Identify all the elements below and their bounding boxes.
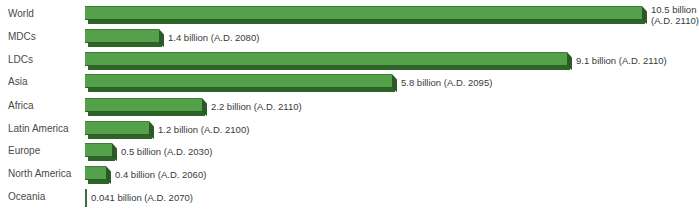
bar-front-face: [85, 29, 159, 43]
chart-row-ldcs: LDCs 9.1 billion (A.D. 2110): [0, 50, 650, 72]
value-label: 0.5 billion (A.D. 2030): [121, 146, 212, 157]
chart-row-europe: Europe 0.5 billion (A.D. 2030): [0, 141, 650, 163]
bar-bottom-face: [88, 180, 109, 184]
value-label: 10.5 billion(A.D. 2110): [651, 4, 699, 26]
bar-bottom-face: [88, 43, 162, 47]
value-label: 0.4 billion (A.D. 2060): [115, 169, 206, 180]
category-label: Africa: [8, 100, 34, 111]
value-label: 9.1 billion (A.D. 2110): [576, 55, 667, 66]
category-label: Latin America: [8, 123, 69, 134]
bar-front-face: [85, 74, 392, 88]
value-label-line1: 10.5 billion: [651, 4, 699, 15]
value-label: 1.4 billion (A.D. 2080): [168, 32, 259, 43]
category-label: Europe: [8, 145, 40, 156]
bar-bottom-face: [88, 135, 152, 139]
category-label: Oceania: [8, 191, 45, 202]
bar-front-face: [85, 98, 202, 112]
chart-row-north-america: North America 0.4 billion (A.D. 2060): [0, 164, 650, 186]
bar-front-face: [85, 189, 87, 207]
bar-front-face: [85, 166, 106, 180]
chart-row-world: World 10.5 billion(A.D. 2110): [0, 4, 650, 26]
value-label: 5.8 billion (A.D. 2095): [401, 77, 492, 88]
category-label: MDCs: [8, 31, 36, 42]
value-label: 0.041 billion (A.D. 2070): [91, 192, 193, 203]
chart-row-asia: Asia 5.8 billion (A.D. 2095): [0, 72, 650, 94]
category-label: Asia: [8, 76, 27, 87]
value-label: 1.2 billion (A.D. 2100): [158, 124, 249, 135]
bar-bottom-face: [88, 20, 645, 24]
category-label: North America: [8, 168, 71, 179]
bar-bottom-face: [88, 88, 395, 92]
bar-front-face: [85, 121, 149, 135]
bar-bottom-face: [88, 112, 205, 116]
bar-front-face: [85, 6, 642, 20]
chart-row-africa: Africa 2.2 billion (A.D. 2110): [0, 96, 650, 118]
category-label: LDCs: [8, 54, 33, 65]
bar-bottom-face: [88, 157, 115, 161]
value-label-line2: (A.D. 2110): [651, 15, 699, 26]
value-label: 2.2 billion (A.D. 2110): [211, 101, 302, 112]
bar-bottom-face: [88, 66, 570, 70]
chart-row-oceania: Oceania 0.041 billion (A.D. 2070): [0, 187, 650, 209]
chart-row-latin-america: Latin America 1.2 billion (A.D. 2100): [0, 119, 650, 141]
bar-front-face: [85, 52, 567, 66]
chart-row-mdcs: MDCs 1.4 billion (A.D. 2080): [0, 27, 650, 49]
bar-front-face: [85, 143, 112, 157]
category-label: World: [8, 8, 34, 19]
